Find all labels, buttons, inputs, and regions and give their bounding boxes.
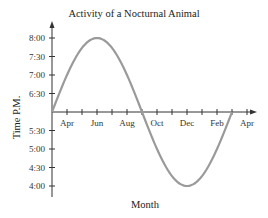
y-tick-label: 4:00 [29,181,46,191]
x-axis-arrow-icon [250,110,257,115]
x-tick-label: Apr [60,118,74,128]
x-tick-label: Dec [180,118,195,128]
x-tick-label: Oct [151,118,164,128]
y-tick-label: 5:30 [29,126,46,136]
x-tick-label: Feb [210,118,224,128]
y-tick-label: 8:00 [29,33,46,43]
x-tick-label: Aug [119,118,135,128]
y-axis-arrow-icon [50,21,55,28]
y-tick-label: 5:00 [29,144,46,154]
x-tick-label: Apr [240,118,254,128]
y-tick-label: 7:00 [29,70,46,80]
plot-area: 8:007:307:006:305:305:004:304:00AprJunAu… [0,0,268,218]
y-tick-label: 7:30 [29,52,46,62]
x-tick-label: Jun [91,118,104,128]
y-axis-label: Time P.M. [11,88,22,148]
y-tick-label: 6:30 [29,89,46,99]
x-axis-label: Month [0,199,268,210]
y-tick-label: 4:30 [29,163,46,173]
